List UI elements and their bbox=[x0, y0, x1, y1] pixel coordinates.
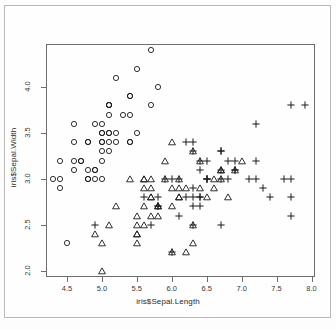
data-point-versicolor bbox=[105, 221, 113, 229]
data-point-virginica bbox=[168, 248, 176, 256]
data-point-versicolor bbox=[224, 193, 232, 201]
data-point-virginica bbox=[189, 147, 197, 155]
data-point-versicolor bbox=[238, 157, 246, 165]
x-axis-label: iris$Sepal.Length bbox=[0, 297, 336, 306]
data-point-setosa bbox=[126, 111, 133, 118]
data-point-virginica bbox=[252, 175, 260, 183]
y-tick bbox=[41, 133, 46, 134]
data-point-virginica bbox=[217, 221, 225, 229]
data-point-setosa bbox=[70, 166, 77, 173]
data-point-setosa bbox=[105, 139, 112, 146]
data-point-setosa bbox=[70, 139, 77, 146]
data-point-virginica bbox=[203, 157, 211, 165]
x-tick-label: 5.5 bbox=[132, 284, 142, 293]
data-point-setosa bbox=[98, 129, 105, 136]
data-point-setosa bbox=[112, 139, 119, 146]
data-point-versicolor bbox=[168, 184, 176, 192]
data-point-virginica bbox=[196, 166, 204, 174]
data-point-virginica bbox=[189, 202, 197, 210]
x-tick bbox=[67, 277, 68, 282]
data-point-versicolor bbox=[168, 138, 176, 146]
data-point-setosa bbox=[105, 111, 112, 118]
data-point-setosa bbox=[63, 240, 70, 247]
data-point-setosa bbox=[56, 157, 63, 164]
data-point-versicolor bbox=[133, 221, 141, 229]
y-tick-label: 2.5 bbox=[23, 219, 32, 229]
data-point-setosa bbox=[126, 93, 133, 100]
y-axis-label: iris$Sepal.Width bbox=[9, 83, 18, 233]
x-tick-label: 5.0 bbox=[97, 284, 107, 293]
data-point-versicolor bbox=[154, 212, 162, 220]
data-point-setosa bbox=[147, 102, 154, 109]
x-tick bbox=[277, 277, 278, 282]
data-point-setosa bbox=[133, 129, 140, 136]
data-point-setosa bbox=[98, 120, 105, 127]
data-point-versicolor bbox=[133, 212, 141, 220]
x-tick bbox=[137, 277, 138, 282]
data-point-setosa bbox=[126, 139, 133, 146]
data-point-setosa bbox=[98, 157, 105, 164]
plot-page: 4.55.05.56.06.57.07.58.0 2.02.53.03.54.0… bbox=[0, 0, 336, 329]
y-tick bbox=[41, 225, 46, 226]
data-point-versicolor bbox=[91, 230, 99, 238]
data-point-virginica bbox=[217, 147, 225, 155]
data-point-versicolor bbox=[140, 202, 148, 210]
data-point-setosa bbox=[98, 175, 105, 182]
y-tick bbox=[41, 87, 46, 88]
data-point-virginica bbox=[287, 101, 295, 109]
data-point-setosa bbox=[119, 111, 126, 118]
data-point-virginica bbox=[147, 221, 155, 229]
data-point-virginica bbox=[189, 221, 197, 229]
data-point-virginica bbox=[196, 202, 204, 210]
x-tick-label: 6.5 bbox=[201, 284, 211, 293]
data-point-setosa bbox=[84, 139, 91, 146]
data-point-virginica bbox=[175, 212, 183, 220]
data-point-virginica bbox=[189, 184, 197, 192]
x-tick bbox=[207, 277, 208, 282]
data-point-versicolor bbox=[126, 175, 134, 183]
data-point-virginica bbox=[217, 166, 225, 174]
data-point-setosa bbox=[105, 102, 112, 109]
data-point-virginica bbox=[287, 175, 295, 183]
data-point-setosa bbox=[56, 175, 63, 182]
data-point-virginica bbox=[189, 193, 197, 201]
data-point-virginica bbox=[196, 157, 204, 165]
y-tick-label: 3.5 bbox=[23, 127, 32, 137]
data-point-virginica bbox=[266, 193, 274, 201]
data-point-setosa bbox=[91, 120, 98, 127]
data-point-virginica bbox=[301, 101, 309, 109]
x-tick bbox=[312, 277, 313, 282]
data-point-setosa bbox=[112, 74, 119, 81]
data-point-setosa bbox=[147, 47, 154, 54]
y-tick-label: 2.0 bbox=[23, 265, 32, 275]
data-point-versicolor bbox=[147, 184, 155, 192]
data-point-virginica bbox=[231, 157, 239, 165]
data-point-virginica bbox=[182, 138, 190, 146]
data-point-setosa bbox=[98, 148, 105, 155]
data-point-virginica bbox=[231, 166, 239, 174]
data-point-versicolor bbox=[168, 202, 176, 210]
data-point-versicolor bbox=[189, 239, 197, 247]
data-point-virginica bbox=[224, 175, 232, 183]
scatter-plot: 4.55.05.56.06.57.07.58.0 2.02.53.03.54.0… bbox=[0, 0, 336, 329]
data-point-virginica bbox=[175, 175, 183, 183]
data-point-virginica bbox=[154, 193, 162, 201]
data-point-setosa bbox=[91, 166, 98, 173]
x-tick-label: 7.5 bbox=[271, 284, 281, 293]
x-tick-label: 6.0 bbox=[167, 284, 177, 293]
data-point-virginica bbox=[189, 138, 197, 146]
y-tick-label: 4.0 bbox=[23, 81, 32, 91]
data-point-virginica bbox=[154, 202, 162, 210]
data-point-virginica bbox=[224, 157, 232, 165]
data-points-layer bbox=[46, 44, 315, 277]
data-point-versicolor bbox=[98, 267, 106, 275]
x-tick bbox=[172, 277, 173, 282]
data-point-setosa bbox=[56, 185, 63, 192]
data-point-virginica bbox=[140, 193, 148, 201]
data-point-virginica bbox=[259, 184, 267, 192]
data-point-versicolor bbox=[196, 184, 204, 192]
data-point-setosa bbox=[133, 65, 140, 72]
data-point-virginica bbox=[217, 175, 225, 183]
data-point-virginica bbox=[168, 175, 176, 183]
data-point-setosa bbox=[70, 157, 77, 164]
